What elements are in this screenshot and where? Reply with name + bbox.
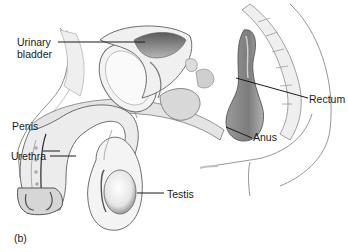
panel-label: (b)	[14, 232, 27, 244]
label-testis: Testis	[167, 188, 194, 200]
anatomy-illustration	[0, 0, 348, 252]
testis	[104, 170, 136, 214]
label-urinary-bladder-line1: Urinary	[17, 36, 52, 48]
label-rectum: Rectum	[309, 93, 345, 105]
label-urinary-bladder-line2: bladder	[17, 48, 52, 60]
label-anus: Anus	[253, 131, 277, 143]
label-urinary-bladder: Urinary bladder	[17, 36, 52, 60]
anatomy-diagram: Urinary bladder Rectum Penis Urethra Anu…	[0, 0, 348, 252]
label-penis: Penis	[12, 120, 38, 132]
label-urethra: Urethra	[11, 150, 46, 162]
rectum	[226, 30, 264, 141]
